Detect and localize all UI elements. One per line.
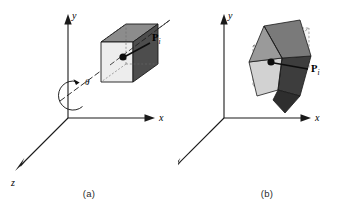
point-pi-dot (119, 53, 126, 60)
y-axis-arrowhead (220, 14, 227, 25)
x-axis-label: x (158, 112, 164, 123)
z-axis-line (21, 118, 68, 165)
theta-label: θ (85, 77, 90, 87)
panel-a-diagram: y x z (0, 0, 178, 205)
z-axis-label: z (10, 177, 15, 188)
x-axis-arrowhead (145, 114, 156, 121)
cube-front-face (101, 42, 133, 82)
z-axis-line (178, 118, 224, 165)
theta-arc (58, 81, 82, 110)
x-axis-label: x (314, 112, 320, 123)
cube-a (101, 24, 158, 82)
figure-panel-a: y x z (0, 0, 178, 205)
y-axis-label: y (227, 10, 233, 21)
y-axis-label: y (71, 10, 77, 21)
panel-b-diagram: y x z (178, 0, 356, 205)
z-axis-arrowhead (178, 158, 182, 171)
point-pi-dot (267, 58, 274, 65)
figure-panel-b: y x z (178, 0, 356, 205)
rotated-cube-dark-face (278, 56, 311, 96)
x-axis-arrowhead (301, 114, 312, 121)
theta-arc-arrowhead (74, 79, 80, 85)
panel-b-caption: (b) (178, 188, 356, 199)
panel-a-caption: (a) (0, 188, 178, 199)
z-axis-arrowhead (15, 158, 26, 171)
rotated-cube-b (249, 20, 311, 113)
rotation-angle-a: θ (58, 77, 90, 110)
y-axis-arrowhead (64, 14, 71, 25)
point-pi-label: Pi (311, 63, 320, 77)
figure-root: y x z (0, 0, 356, 205)
